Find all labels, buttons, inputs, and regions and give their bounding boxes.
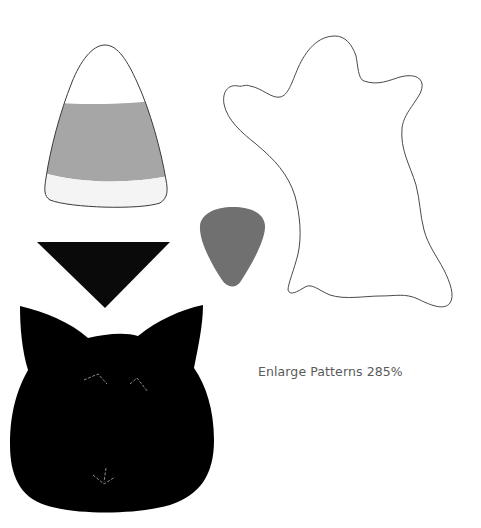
candy-corn-pattern — [30, 40, 180, 215]
cat-head-pattern — [10, 305, 214, 513]
triangle-pattern — [37, 242, 170, 308]
ghost-pattern — [224, 36, 452, 307]
pattern-sheet — [0, 0, 481, 528]
enlarge-caption: Enlarge Patterns 285% — [258, 364, 403, 379]
small-candy-corn-pattern — [200, 207, 265, 287]
